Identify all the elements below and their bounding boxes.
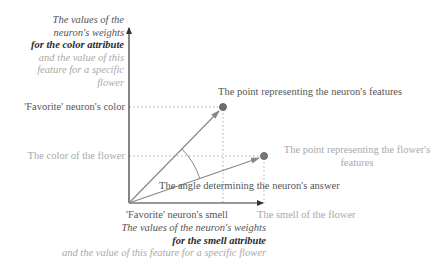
flower-point-label-line: features xyxy=(271,157,442,170)
x-axis-title-line: for the smell attribute xyxy=(62,235,266,248)
angle-label: The angle determining the neuron's answe… xyxy=(159,180,340,193)
y-tick-flower-color: The color of the flower xyxy=(28,150,125,163)
y-axis-title-line: The values of the xyxy=(31,14,124,27)
neuron-point xyxy=(220,104,227,111)
y-axis-title: The values of the neuron's weights for t… xyxy=(31,14,124,89)
neuron-point-label: The point representing the neuron's feat… xyxy=(218,86,402,99)
x-axis-title-line: and the value of this feature for a spec… xyxy=(62,247,266,260)
flower-point xyxy=(261,153,268,160)
y-axis-title-line: flower xyxy=(31,77,124,90)
y-axis-title-line: for the color attribute xyxy=(31,39,124,52)
angle-arc xyxy=(182,149,200,179)
x-tick-flower-smell: The smell of the flower xyxy=(257,209,356,222)
x-axis-title: The values of the neuron's weights for t… xyxy=(62,222,266,260)
y-axis-title-line: and the value of this xyxy=(31,52,124,65)
y-axis-title-line: neuron's weights xyxy=(31,27,124,40)
y-axis-title-line: feature for a specific xyxy=(31,64,124,77)
flower-point-label: The point representing the flower's feat… xyxy=(271,144,442,169)
flower-point-label-line: The point representing the flower's xyxy=(271,144,442,157)
x-axis-title-line: The values of the neuron's weights xyxy=(62,222,266,235)
x-tick-neuron-smell: 'Favorite' neuron's smell xyxy=(126,209,228,222)
y-tick-neuron-color: 'Favorite' neuron's color xyxy=(24,101,125,114)
